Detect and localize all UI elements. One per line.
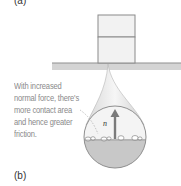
caption-line: more contact area	[14, 104, 86, 116]
panel-b-label: (b)	[14, 170, 26, 181]
ground-surface	[52, 63, 181, 70]
normal-force-label: n⃗	[103, 119, 113, 128]
caption-line: With increased	[14, 80, 86, 92]
stacked-blocks	[98, 15, 135, 63]
caption-text: With increased normal force, there's mor…	[14, 80, 86, 140]
caption-line: normal force, there's	[14, 92, 86, 104]
caption-line: and hence greater	[14, 116, 86, 128]
caption-line: friction.	[14, 128, 86, 140]
